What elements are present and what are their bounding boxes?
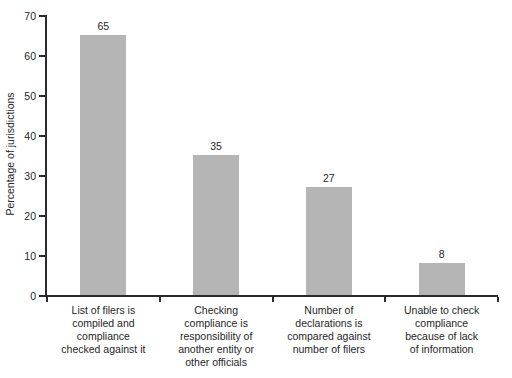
category-label-line: compiled and	[45, 317, 161, 330]
category-label-0: List of filers iscompiled andcompliancec…	[45, 304, 161, 356]
x-tick-mark	[159, 297, 161, 302]
category-label-line: compliance is	[158, 317, 274, 330]
y-tick-mark	[39, 175, 45, 177]
bar-value-label-1: 35	[191, 140, 241, 152]
category-label-line: number of filers	[271, 343, 387, 356]
bar-value-label-3: 8	[417, 248, 467, 260]
y-tick-label: 30	[6, 170, 36, 182]
category-label-line: compliance	[384, 317, 500, 330]
bar-3	[419, 263, 465, 295]
y-tick-label: 70	[6, 10, 36, 22]
category-label-2: Number ofdeclarations iscompared against…	[271, 304, 387, 356]
category-label-line: compared against	[271, 330, 387, 343]
category-label-line: compliance	[45, 330, 161, 343]
category-label-line: of information	[384, 343, 500, 356]
category-label-line: List of filers is	[45, 304, 161, 317]
y-tick-label: 0	[6, 290, 36, 302]
bar-value-label-0: 65	[78, 20, 128, 32]
category-label-line: Unable to check	[384, 304, 500, 317]
y-tick-label: 50	[6, 90, 36, 102]
y-tick-label: 10	[6, 250, 36, 262]
y-tick-label: 40	[6, 130, 36, 142]
y-tick-mark	[39, 215, 45, 217]
category-label-line: declarations is	[271, 317, 387, 330]
category-label-line: because of lack	[384, 330, 500, 343]
category-label-line: another entity or	[158, 343, 274, 356]
category-label-1: Checkingcompliance isresponsibility ofan…	[158, 304, 274, 369]
y-tick-mark	[39, 135, 45, 137]
x-tick-mark	[497, 297, 499, 302]
bar-0	[80, 35, 126, 295]
category-label-line: Number of	[271, 304, 387, 317]
y-tick-mark	[39, 15, 45, 17]
category-label-3: Unable to checkcompliancebecause of lack…	[384, 304, 500, 356]
category-label-line: other officials	[158, 356, 274, 369]
x-tick-mark	[272, 297, 274, 302]
y-tick-label: 60	[6, 50, 36, 62]
category-label-line: Checking	[158, 304, 274, 317]
x-tick-mark	[46, 297, 48, 302]
y-tick-mark	[39, 95, 45, 97]
y-tick-mark	[39, 55, 45, 57]
bar-chart: Percentage of jurisdictions 010203040506…	[0, 0, 512, 378]
y-axis-line	[45, 15, 47, 297]
bar-2	[306, 187, 352, 295]
category-label-line: checked against it	[45, 343, 161, 356]
x-tick-mark	[384, 297, 386, 302]
y-tick-label: 20	[6, 210, 36, 222]
bar-1	[193, 155, 239, 295]
bar-value-label-2: 27	[304, 172, 354, 184]
y-tick-mark	[39, 255, 45, 257]
category-label-line: responsibility of	[158, 330, 274, 343]
y-tick-mark	[39, 295, 45, 297]
